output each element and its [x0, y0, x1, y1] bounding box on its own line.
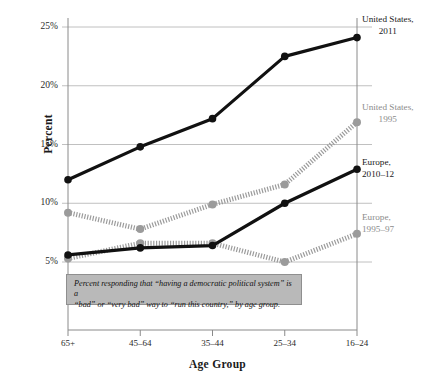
- data-point: [64, 251, 72, 259]
- data-point: [209, 115, 217, 123]
- data-point: [281, 53, 289, 61]
- annotation-box: Percent responding that “having a democr…: [66, 274, 302, 305]
- series-label-line-2: 1995–97: [362, 224, 394, 236]
- x-tick-label: 25–34: [255, 338, 315, 348]
- data-point: [353, 165, 361, 173]
- annotation-line-1: Percent responding that “having a democr…: [74, 279, 294, 300]
- data-point: [209, 200, 217, 208]
- data-point: [64, 176, 72, 184]
- y-tick-label: 15%: [18, 139, 58, 149]
- data-point: [281, 180, 289, 188]
- series-label-line-1: United States,: [362, 14, 414, 26]
- series-line: [68, 122, 357, 229]
- x-axis-title: Age Group: [60, 358, 375, 370]
- x-tick-label: 65+: [38, 338, 98, 348]
- x-tick-label: 35–44: [183, 338, 243, 348]
- series-label-line-2: 2011: [362, 26, 414, 38]
- y-tick-label: 5%: [18, 256, 58, 266]
- series-label-line-1: Europe,: [362, 157, 394, 169]
- series-label-line-1: Europe,: [362, 212, 394, 224]
- data-point: [281, 258, 289, 266]
- series-label-line-2: 2010–12: [362, 169, 394, 181]
- series-legend-label: United States,2011: [362, 14, 414, 37]
- annotation-line-2: “bad” or “very bad” way to “run this cou…: [74, 300, 294, 310]
- data-point: [281, 199, 289, 207]
- x-tick-label: 16–24: [327, 338, 387, 348]
- data-point: [136, 143, 144, 151]
- data-point: [353, 118, 361, 126]
- data-point: [353, 230, 361, 238]
- data-point: [136, 244, 144, 252]
- series-label-line-2: 1995: [362, 114, 414, 126]
- y-tick-label: 10%: [18, 197, 58, 207]
- x-tick-label: 45–64: [110, 338, 170, 348]
- y-tick-label: 20%: [18, 80, 58, 90]
- data-point: [353, 34, 361, 42]
- y-tick-label: 25%: [18, 21, 58, 31]
- series-legend-label: Europe,1995–97: [362, 212, 394, 235]
- data-point: [136, 225, 144, 233]
- chart-container: Percent Age Group 5%10%15%20%25% 65+45–6…: [0, 0, 429, 384]
- chart-plot: [0, 0, 429, 384]
- series-label-line-1: United States,: [362, 102, 414, 114]
- data-point: [209, 242, 217, 250]
- data-point: [64, 209, 72, 217]
- series-legend-label: Europe,2010–12: [362, 157, 394, 180]
- y-axis-title: Percent: [42, 94, 54, 174]
- series-legend-label: United States,1995: [362, 102, 414, 125]
